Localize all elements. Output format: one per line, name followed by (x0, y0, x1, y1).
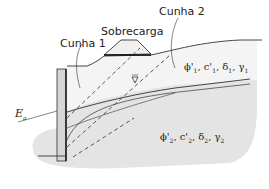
active-force-label: Ea (15, 108, 27, 121)
wedge2-label: Cunha 2 (159, 6, 205, 17)
wedge1-label: Cunha 1 (60, 38, 106, 49)
retaining-wall (57, 69, 66, 161)
layer2-parameters: ϕ'2, c'2, δ2, γ2 (160, 132, 224, 144)
surcharge-label: Sobrecarga (101, 26, 164, 37)
surcharge-trapezoid (104, 40, 151, 55)
layer1-parameters: ϕ'1, c'1, δ1, γ1 (184, 62, 248, 74)
retaining-wall-diagram: Sobrecarga Cunha 1 Cunha 2 Ea ϕ'1, c'1, … (0, 0, 269, 189)
